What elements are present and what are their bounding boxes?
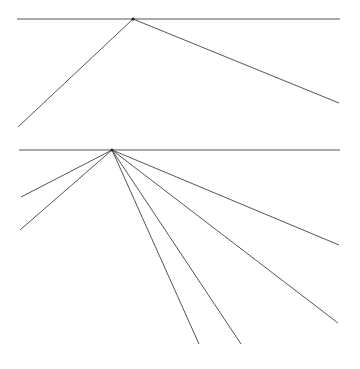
geometry-diagram [0, 0, 360, 369]
ray [112, 150, 339, 245]
ray [112, 150, 241, 344]
ray [112, 150, 338, 323]
ray [112, 150, 199, 344]
figure-ray-fan [19, 148, 340, 344]
ray [18, 19, 133, 127]
ray [133, 19, 339, 103]
figure-angle-pair [17, 17, 340, 127]
vertex-point [131, 17, 134, 20]
vertex-point [110, 148, 113, 151]
